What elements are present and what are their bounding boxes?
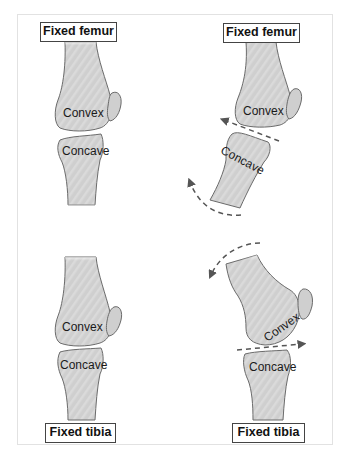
fixed-tibia-label: Fixed tibia [232, 423, 305, 443]
panel-top-left [55, 42, 121, 208]
fixed-femur-label: Fixed femur [40, 22, 117, 42]
convex-label: Convex [63, 106, 104, 120]
fixed-femur-label: Fixed femur [223, 23, 300, 43]
fixed-tibia-label: Fixed tibia [45, 423, 116, 443]
convex-label: Convex [243, 104, 284, 118]
concave-label: Concave [60, 358, 107, 372]
panel-top-right [190, 42, 302, 215]
panel-bottom-left [55, 257, 121, 420]
knee-arthrokinematics-illustration [0, 0, 345, 459]
concave-label: Concave [249, 360, 296, 374]
concave-label: Concave [62, 144, 109, 158]
patella-bone [107, 92, 121, 121]
patella-bone [298, 289, 313, 319]
convex-label: Convex [62, 320, 103, 334]
